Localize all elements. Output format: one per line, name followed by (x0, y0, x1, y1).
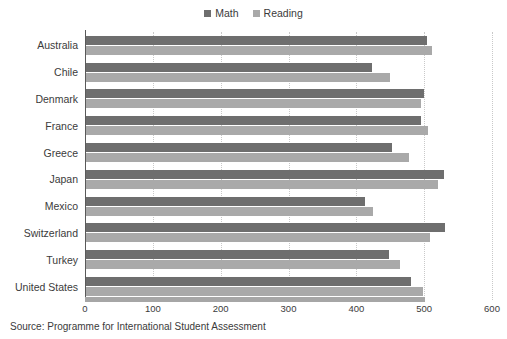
bar-reading-denmark (85, 99, 421, 108)
bar-math-chile (85, 63, 372, 72)
y-axis-labels: AustraliaChileDenmarkFranceGreeceJapanMe… (0, 32, 80, 300)
plot-area (85, 32, 492, 300)
x-tick-400: 400 (348, 303, 364, 314)
bar-math-australia (85, 36, 427, 45)
bar-group-turkey (85, 246, 492, 273)
x-tick-600: 600 (484, 303, 500, 314)
source-caption: Source: Programme for International Stud… (10, 321, 266, 333)
bar-reading-chile (85, 73, 390, 82)
bar-reading-greece (85, 153, 409, 162)
bar-reading-france (85, 126, 428, 135)
bar-group-mexico (85, 193, 492, 220)
y-axis-label-denmark: Denmark (0, 93, 78, 105)
bar-group-japan (85, 166, 492, 193)
x-tick-300: 300 (281, 303, 297, 314)
bar-reading-mexico (85, 207, 373, 216)
y-axis-label-turkey: Turkey (0, 254, 78, 266)
y-axis-label-france: France (0, 120, 78, 132)
bar-group-greece (85, 139, 492, 166)
bar-group-united-states (85, 273, 492, 300)
y-axis-label-united-states: United States (0, 281, 78, 293)
bar-group-chile (85, 59, 492, 86)
x-tick-100: 100 (145, 303, 161, 314)
bar-group-australia (85, 32, 492, 59)
bar-math-japan (85, 170, 444, 179)
bar-math-denmark (85, 89, 424, 98)
bar-reading-japan (85, 180, 438, 189)
bar-group-denmark (85, 86, 492, 113)
x-tick-200: 200 (213, 303, 229, 314)
y-axis-label-greece: Greece (0, 147, 78, 159)
y-axis-label-mexico: Mexico (0, 200, 78, 212)
bar-math-greece (85, 143, 392, 152)
bar-reading-turkey (85, 260, 400, 269)
gridline-600 (492, 32, 494, 300)
y-axis-label-chile: Chile (0, 66, 78, 78)
bar-math-united-states (85, 277, 411, 286)
bar-group-france (85, 112, 492, 139)
y-axis-label-japan: Japan (0, 173, 78, 185)
x-axis-line (85, 297, 425, 302)
x-tick-0: 0 (82, 303, 87, 314)
bar-group-switzerland (85, 220, 492, 247)
bar-math-france (85, 116, 421, 125)
bar-math-turkey (85, 250, 389, 259)
bar-reading-switzerland (85, 233, 430, 242)
bar-math-mexico (85, 197, 365, 206)
x-tick-500: 500 (416, 303, 432, 314)
bar-reading-australia (85, 46, 432, 55)
y-axis-label-switzerland: Switzerland (0, 227, 78, 239)
x-axis-tick-labels: 0100200300400500600 (0, 303, 507, 317)
bar-chart: AustraliaChileDenmarkFranceGreeceJapanMe… (0, 0, 507, 339)
y-axis-label-australia: Australia (0, 39, 78, 51)
y-axis-line (85, 30, 86, 302)
bar-reading-united-states (85, 287, 423, 296)
bar-math-switzerland (85, 223, 445, 232)
